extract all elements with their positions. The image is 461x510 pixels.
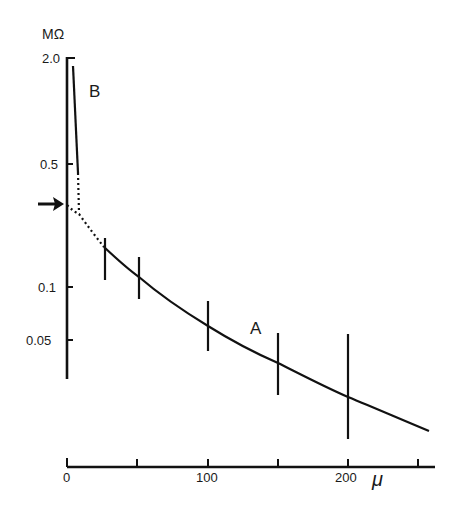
chart: MΩ 2.0 0.5 0.1 0.05 0 100 200 μ B A — [0, 0, 461, 510]
error-bars — [105, 238, 348, 439]
arrow-icon — [38, 197, 64, 211]
y-axis-unit: MΩ — [42, 26, 64, 42]
curve-b — [73, 66, 79, 213]
y-tick-label-0.05: 0.05 — [26, 333, 51, 348]
x-tick-label-200: 200 — [335, 470, 357, 485]
curve-a-extrapolation — [67, 205, 104, 247]
x-tick-label-0: 0 — [63, 470, 70, 485]
x-axis-unit: μ — [371, 468, 383, 490]
x-axis — [67, 458, 435, 467]
x-tick-label-100: 100 — [196, 470, 218, 485]
curve-a — [104, 247, 429, 431]
curve-a-label: A — [250, 319, 262, 338]
y-tick-label-2: 2.0 — [42, 51, 60, 66]
y-tick-label-0.5: 0.5 — [40, 157, 58, 172]
curve-b-label: B — [89, 82, 100, 101]
y-tick-label-0.1: 0.1 — [38, 280, 56, 295]
